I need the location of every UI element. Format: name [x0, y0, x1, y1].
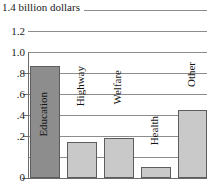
y-tick-label-0-8: .8	[0, 68, 25, 79]
chart-title: 1.4 billion dollars	[2, 2, 80, 13]
y-tick-label-1-0: 1.0	[0, 47, 25, 58]
bar-welfare	[104, 138, 134, 178]
bar-label-education: Education	[38, 92, 49, 137]
bar-label-health: Health	[149, 116, 160, 145]
bar-health	[141, 167, 171, 178]
y-tick-label-1-2: 1.2	[0, 26, 25, 37]
plot-area	[0, 0, 207, 187]
bar-label-highway: Highway	[75, 66, 86, 106]
x-axis-line	[22, 178, 207, 179]
y-axis-line	[28, 52, 29, 179]
bar-label-welfare: Welfare	[112, 70, 123, 105]
y-tick-label-0-0: 0	[0, 172, 25, 183]
bar-label-other: Other	[186, 62, 197, 87]
bar-chart: 1.2 1.0 .8 .6 .4 .2 0 1.4 billion dollar…	[0, 0, 207, 187]
y-tick-label-0-2: .2	[0, 131, 25, 142]
y-tick-label-0-4: .4	[0, 110, 25, 121]
bar-other	[178, 110, 207, 178]
bar-highway	[67, 142, 97, 178]
y-tick-label-0-6: .6	[0, 89, 25, 100]
